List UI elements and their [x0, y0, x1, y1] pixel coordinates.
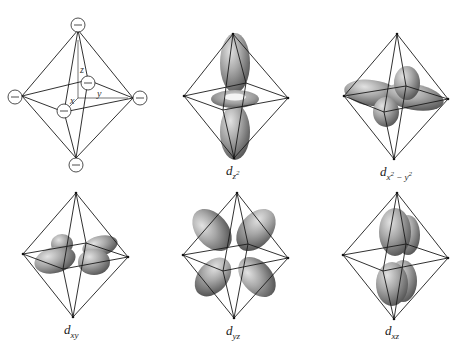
axis-label-y: y	[97, 88, 101, 99]
orbital-panel-dx2-y2: dx2 − y2	[310, 0, 471, 180]
orbital-panel-dxy: dxy	[0, 180, 160, 350]
ligand-front	[57, 104, 71, 118]
ligand-bottom	[69, 158, 83, 172]
orbital-label-dxy: dxy	[64, 322, 79, 340]
axis-label-z: z	[80, 64, 84, 75]
axis-label-x: x	[70, 95, 74, 106]
ligand-back	[81, 76, 95, 90]
ligand-left	[8, 90, 22, 104]
dz2-orbital	[160, 0, 310, 180]
orbital-label-dxz: dxz	[385, 323, 399, 341]
ligand-top	[71, 18, 85, 32]
orbital-label-dyz: dyz	[226, 323, 240, 341]
octahedron-diagram	[0, 0, 160, 180]
ligand-octahedron-panel: z y x	[0, 0, 160, 180]
orbital-panel-dyz: dyz	[160, 180, 310, 350]
orbital-label-dx2-y2: dx2 − y2	[380, 164, 412, 182]
ligand-right	[133, 91, 147, 105]
orbital-panel-dxz: dxz	[310, 180, 471, 350]
dx2-y2-orbital	[310, 0, 471, 180]
dxy-orbital	[0, 180, 160, 350]
orbital-panel-dz2: dz2	[160, 0, 310, 180]
orbital-label-dz2: dz2	[226, 163, 240, 181]
